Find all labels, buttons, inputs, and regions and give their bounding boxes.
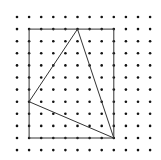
grid-dot [100, 149, 103, 152]
grid-dot [137, 137, 140, 140]
grid-dot [16, 88, 19, 91]
grid-dot [137, 149, 140, 152]
grid-dot [149, 52, 152, 55]
grid-dot [149, 149, 152, 152]
grid-dot [76, 52, 79, 55]
grid-dot [76, 16, 79, 19]
grid-dot [100, 76, 103, 79]
grid-dot [149, 40, 152, 43]
grid-dot [64, 100, 67, 103]
grid-dot [137, 88, 140, 91]
grid-dot [125, 16, 128, 19]
grid-dot [52, 149, 55, 152]
grid-dot [149, 76, 152, 79]
triangle [29, 29, 114, 138]
grid-dot [64, 149, 67, 152]
grid-dot [52, 88, 55, 91]
grid-dot [40, 149, 43, 152]
grid-dot [125, 149, 128, 152]
grid-dot [52, 100, 55, 103]
grid-dot [40, 100, 43, 103]
grid-dot [100, 88, 103, 91]
grid-dot [76, 40, 79, 43]
grid-dot [137, 40, 140, 43]
dot-grid-diagram [0, 0, 161, 160]
grid-dot [125, 28, 128, 31]
grid-dot [64, 16, 67, 19]
grid-dot [125, 52, 128, 55]
grid-dot [16, 149, 19, 152]
grid-dot [76, 149, 79, 152]
rectangle [29, 29, 114, 138]
grid-dot [40, 113, 43, 116]
grid-dot [88, 16, 91, 19]
grid-dot [137, 64, 140, 67]
grid-dot [76, 125, 79, 128]
grid-dot [64, 113, 67, 116]
grid-dot [76, 88, 79, 91]
grid-dot [88, 76, 91, 79]
grid-dot [64, 52, 67, 55]
grid-dot [137, 28, 140, 31]
grid-dot [52, 16, 55, 19]
grid-dot [149, 137, 152, 140]
grid-dot [52, 40, 55, 43]
grid-dot [16, 113, 19, 116]
grid-dot [16, 76, 19, 79]
grid-dot [40, 125, 43, 128]
grid-dot [88, 100, 91, 103]
grid-dot [16, 16, 19, 19]
grid-dot [88, 40, 91, 43]
grid-dot [16, 40, 19, 43]
grid-dot [137, 76, 140, 79]
grid-dot [149, 113, 152, 116]
grid-dot [16, 52, 19, 55]
grid-dot [64, 125, 67, 128]
grid-dot [16, 28, 19, 31]
grid-dot [100, 40, 103, 43]
grid-dot [125, 40, 128, 43]
grid-dot [137, 52, 140, 55]
grid-dot [52, 125, 55, 128]
grid-dot [76, 113, 79, 116]
grid-dot [149, 28, 152, 31]
grid-dot [88, 52, 91, 55]
grid-dot [149, 100, 152, 103]
grid-dot [137, 16, 140, 19]
grid-dot [16, 137, 19, 140]
grid-dot [40, 40, 43, 43]
grid-dot [28, 16, 31, 19]
grid-dot [76, 100, 79, 103]
grid-dot [64, 76, 67, 79]
shapes [29, 29, 114, 138]
grid-dot [40, 76, 43, 79]
grid-dot [88, 88, 91, 91]
grid-dot [76, 64, 79, 67]
grid-dot [100, 52, 103, 55]
grid-dot [28, 149, 31, 152]
grid-dot [125, 137, 128, 140]
grid-dot [52, 52, 55, 55]
grid-dot [40, 64, 43, 67]
grid-dots [16, 16, 152, 152]
grid-dot [149, 64, 152, 67]
grid-dot [137, 125, 140, 128]
grid-dot [16, 100, 19, 103]
grid-dot [125, 100, 128, 103]
grid-dot [16, 125, 19, 128]
grid-dot [40, 88, 43, 91]
grid-dot [76, 76, 79, 79]
grid-dot [100, 64, 103, 67]
grid-dot [88, 113, 91, 116]
grid-dot [88, 149, 91, 152]
grid-dot [100, 16, 103, 19]
grid-dot [125, 76, 128, 79]
grid-dot [149, 16, 152, 19]
grid-dot [40, 16, 43, 19]
grid-dot [125, 64, 128, 67]
grid-dot [113, 16, 116, 19]
grid-dot [64, 64, 67, 67]
grid-dot [52, 76, 55, 79]
grid-dot [64, 88, 67, 91]
grid-dot [100, 113, 103, 116]
